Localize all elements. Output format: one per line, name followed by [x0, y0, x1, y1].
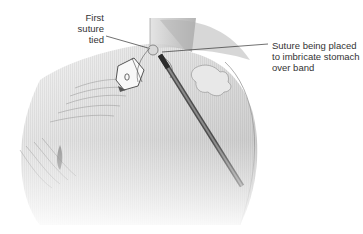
first-suture-label: First suture tied: [70, 12, 104, 45]
label-line: First: [70, 12, 104, 23]
label-line: to imbricate stomach: [272, 51, 360, 62]
label-line: Suture being placed: [272, 40, 360, 51]
suture-placed-label: Suture being placed to imbricate stomach…: [272, 40, 360, 73]
surgical-illustration: First suture tied Suture being placed to…: [0, 0, 363, 234]
label-line: suture: [70, 23, 104, 34]
stomach-band-drawing: [0, 0, 363, 234]
label-line: tied: [70, 34, 104, 45]
label-line: over band: [272, 62, 360, 73]
